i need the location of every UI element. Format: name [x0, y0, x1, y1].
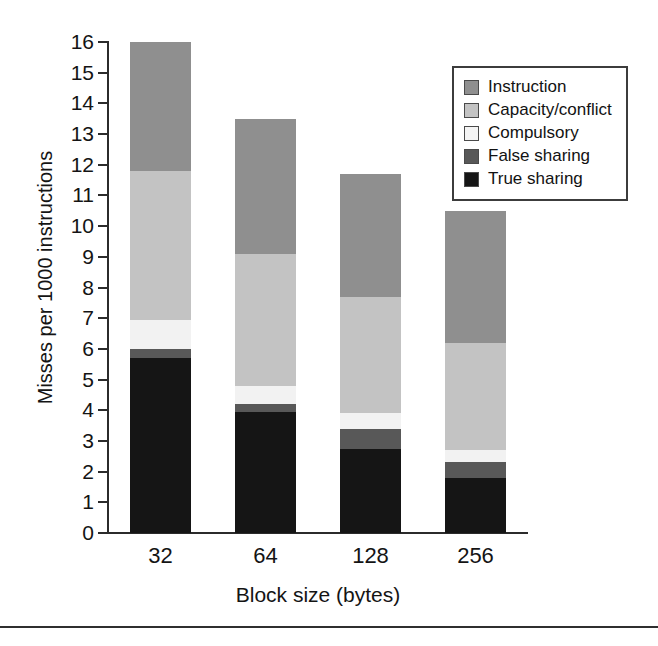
bar-stack — [445, 211, 506, 533]
legend-swatch-icon — [464, 126, 479, 141]
bar-segment — [235, 404, 296, 412]
bar-segment — [235, 254, 296, 386]
bar-segment — [340, 297, 401, 414]
x-axis-tick-label: 64 — [206, 543, 326, 569]
bar-segment — [130, 171, 191, 320]
bar-segment — [445, 462, 506, 477]
x-axis-tick-label: 32 — [101, 543, 221, 569]
y-axis-tick-label: 16 — [10, 31, 94, 52]
bar-stack — [340, 174, 401, 533]
bar-segment — [235, 412, 296, 533]
bar-segment — [445, 343, 506, 450]
legend-item-label: Compulsory — [488, 123, 579, 143]
legend-item-label: Instruction — [488, 77, 566, 97]
legend-item: Capacity/conflict — [464, 99, 612, 121]
bottom-divider — [0, 626, 658, 628]
x-axis-tick-label: 128 — [311, 543, 431, 569]
x-axis-title: Block size (bytes) — [108, 583, 528, 607]
legend-item: Instruction — [464, 76, 612, 98]
y-axis-tick-label: 11 — [10, 184, 94, 205]
y-axis-tick-labels: 012345678910111213141516 — [0, 0, 94, 646]
legend-item: True sharing — [464, 168, 612, 190]
y-axis-tick-label: 1 — [10, 491, 94, 512]
bar-segment — [130, 358, 191, 533]
bar-segment — [445, 450, 506, 462]
y-axis-tick-label: 4 — [10, 399, 94, 420]
y-axis-tick-label: 8 — [10, 277, 94, 298]
y-axis-tick-label: 0 — [10, 522, 94, 543]
y-axis-tick-label: 12 — [10, 154, 94, 175]
y-axis-tick-label: 9 — [10, 246, 94, 267]
y-axis-tick-label: 7 — [10, 307, 94, 328]
bar-segment — [445, 211, 506, 343]
legend-swatch-icon — [464, 149, 479, 164]
legend-item: False sharing — [464, 145, 612, 167]
bar-segment — [445, 478, 506, 533]
bar-segment — [235, 386, 296, 404]
y-axis-tick-label: 14 — [10, 92, 94, 113]
chart-figure: Misses per 1000 instructions 01234567891… — [0, 0, 658, 646]
y-axis-tick-label: 3 — [10, 430, 94, 451]
legend-item-label: Capacity/conflict — [488, 100, 612, 120]
chart-legend: InstructionCapacity/conflictCompulsoryFa… — [452, 66, 628, 201]
legend-swatch-icon — [464, 80, 479, 95]
x-axis-tick-label: 256 — [416, 543, 536, 569]
legend-swatch-icon — [464, 103, 479, 118]
y-axis-tick-label: 13 — [10, 123, 94, 144]
bar-segment — [340, 449, 401, 533]
legend-swatch-icon — [464, 172, 479, 187]
y-axis-tick-label: 15 — [10, 62, 94, 83]
bar-segment — [340, 429, 401, 449]
y-axis-tick-label: 6 — [10, 338, 94, 359]
bar-segment — [340, 413, 401, 428]
bar-segment — [235, 119, 296, 254]
bar-segment — [130, 42, 191, 171]
bar-segment — [130, 320, 191, 349]
bar-stack — [130, 42, 191, 533]
y-axis-tick-label: 10 — [10, 215, 94, 236]
y-axis-tick-label: 5 — [10, 369, 94, 390]
bar-stack — [235, 119, 296, 533]
bar-segment — [130, 349, 191, 358]
y-axis-tick-label: 2 — [10, 461, 94, 482]
legend-item-label: False sharing — [488, 146, 590, 166]
bar-segment — [340, 174, 401, 297]
legend-item-label: True sharing — [488, 169, 583, 189]
legend-item: Compulsory — [464, 122, 612, 144]
